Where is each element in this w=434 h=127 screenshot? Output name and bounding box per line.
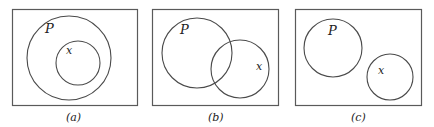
label-p: P — [327, 23, 337, 38]
panel-c: P x (c) — [296, 10, 422, 125]
set-p-circle — [27, 16, 111, 100]
universe-frame — [13, 10, 138, 106]
panel-a: P x (a) — [13, 10, 138, 125]
set-x-circle — [56, 41, 100, 85]
set-p-circle — [162, 18, 232, 88]
label-x: x — [66, 44, 73, 57]
venn-diagrams: P x (a) P x (b) P x (c) — [0, 0, 434, 127]
caption-c: (c) — [351, 111, 366, 124]
set-x-circle — [367, 54, 413, 100]
label-x: x — [256, 60, 263, 73]
label-p: P — [44, 21, 54, 36]
caption-a: (a) — [66, 111, 81, 124]
panel-b: P x (b) — [153, 10, 279, 125]
label-p: P — [179, 22, 189, 37]
label-x: x — [378, 64, 385, 77]
caption-b: (b) — [208, 111, 224, 124]
